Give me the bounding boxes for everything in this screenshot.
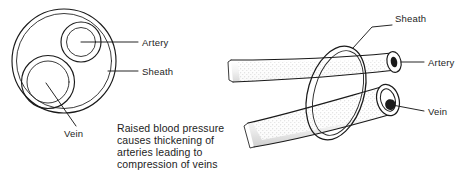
- caption-line-4: compression of veins: [117, 158, 218, 170]
- label-sheath-left: Sheath: [142, 66, 173, 77]
- label-artery-right: Artery: [428, 57, 455, 68]
- caption-line-2: causes thickening of: [117, 134, 214, 146]
- caption-block: Raised blood pressure causes thickening …: [117, 122, 224, 170]
- label-artery-left: Artery: [142, 37, 169, 48]
- sheath-leader-line-right: [353, 25, 392, 48]
- vein-tube: [244, 86, 392, 148]
- caption-line-3: arteries leading to: [117, 146, 202, 158]
- anatomical-diagram: Artery Sheath Vein: [0, 0, 456, 175]
- label-vein-right: Vein: [428, 106, 447, 117]
- label-vein-left: Vein: [64, 128, 83, 139]
- left-cross-section-group: Artery Sheath Vein: [12, 9, 173, 139]
- vein-cross-section: [22, 56, 75, 109]
- right-perspective-group: Sheath Artery Vein: [228, 13, 455, 148]
- caption-line-1: Raised blood pressure: [117, 122, 224, 134]
- vein-leader-line: [46, 83, 76, 126]
- diagram-root: Artery Sheath Vein: [0, 0, 456, 175]
- label-sheath-right: Sheath: [395, 13, 426, 24]
